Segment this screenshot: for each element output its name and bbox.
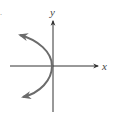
- y-axis-label: y: [50, 7, 55, 18]
- plot-area: [0, 0, 114, 118]
- parabola-lower-arm: [23, 66, 52, 97]
- x-axis-label: x: [102, 61, 107, 72]
- parabola-figure: . y x: [0, 0, 114, 118]
- parabola-upper-arm: [20, 35, 52, 66]
